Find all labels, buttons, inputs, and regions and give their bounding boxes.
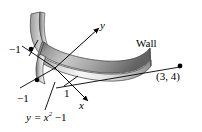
curve-equation-label: y = x2 −1: [26, 111, 67, 123]
x-axis-label: x: [79, 100, 84, 111]
curve-equation-rhs: −1: [52, 111, 66, 123]
tick-label-one: 1: [64, 88, 70, 99]
wall-label: Wall: [136, 38, 157, 49]
leader-line-curve-equation: [45, 82, 55, 110]
point-3-4-dot: [178, 64, 183, 69]
y-axis-label: y: [100, 20, 105, 31]
tick-label-neg1-upper: −1: [9, 44, 21, 55]
tick-label-neg1-lower: −1: [17, 93, 29, 104]
math-figure-parabolic-wall: Wall (3, 4) y x −1 −1 1 y = x2 −1: [0, 0, 202, 132]
point-coordinate-label: (3, 4): [156, 71, 180, 82]
curve-equation-lhs: y = x: [26, 111, 49, 123]
marker-dot-neg1-upper: [29, 47, 34, 52]
marker-dot-neg1-lower: [35, 78, 40, 83]
